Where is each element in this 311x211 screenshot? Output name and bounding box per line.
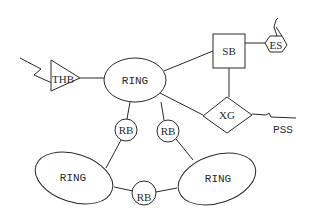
edge-ring-rb-right [161,102,164,120]
xg-label: XG [219,109,235,121]
node-ring-bottom-left: RING [29,143,120,211]
ring-label: RING [122,75,148,87]
thb-incoming-link [20,58,52,83]
ring-bl-label: RING [60,172,86,184]
rb-right-label: RB [161,125,176,137]
node-es: ES [265,36,287,52]
edge-ring-bl-rb-bottom [114,187,133,191]
rb-left-label: RB [119,124,134,136]
edge-rb-bottom-ring-br [156,188,177,192]
node-thb: THB [51,60,80,91]
node-xg: XG [203,97,252,133]
node-sb: SB [213,34,245,68]
edge-ring-sb [164,51,213,71]
es-label: ES [270,39,283,51]
edge-ring-rb-left [127,102,130,119]
pss-label: PSS [273,124,293,136]
ring-br-label: RING [205,173,231,185]
edge-rb-left-ring-bl [106,140,121,168]
node-ring-top: RING [104,58,166,102]
sb-label: SB [222,45,235,57]
thb-label: THB [52,73,74,85]
node-rb-bottom: RB [132,181,156,205]
edge-rb-right-ring-br [176,139,193,160]
edge-xg-pss [252,113,296,118]
rb-bottom-label: RB [137,191,152,203]
node-ring-bottom-right: RING [172,144,263,211]
edge-ring-xg [160,93,203,115]
node-rb-left: RB [115,119,137,141]
node-rb-right: RB [157,120,179,142]
network-diagram: RING THB SB ES XG PSS RB RB RING RING [0,0,311,211]
